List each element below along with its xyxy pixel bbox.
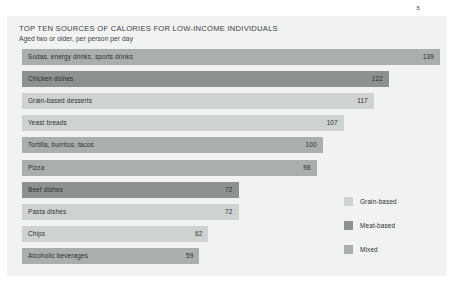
bar-category-label: Chips [28, 226, 45, 242]
bar-row: Tortilla, burritos, tacos100 [22, 137, 440, 153]
bar [22, 71, 389, 87]
bar-category-label: Beef dishes [28, 182, 63, 198]
bar-value-label: 62 [186, 226, 202, 242]
bar-category-label: Sodas, energy drinks, sports drinks [28, 49, 133, 65]
chart-subtitle: Aged two or older, per person per day [19, 35, 133, 43]
bar-category-label: Pizza [28, 160, 44, 176]
bar-value-label: 98 [295, 160, 311, 176]
chart-panel: TOP TEN SOURCES OF CALORIES FOR LOW-INCO… [7, 16, 447, 276]
bar-category-label: Grain-based desserts [28, 93, 92, 109]
bar-category-label: Chicken dishes [28, 71, 73, 87]
bar-row: Beef dishes72 [22, 182, 440, 198]
legend-label: Mixed [360, 245, 378, 254]
bar-value-label: 117 [352, 93, 368, 109]
bar-value-label: 72 [217, 182, 233, 198]
bar-value-label: 100 [301, 137, 317, 153]
bar-row: Pasta dishes72 [22, 204, 440, 220]
legend-swatch [344, 221, 353, 230]
bar-value-label: 59 [177, 248, 193, 264]
bar-category-label: Yeast breads [28, 115, 67, 131]
bar-row: Chicken dishes122 [22, 71, 440, 87]
bar-value-label: 122 [367, 71, 383, 87]
bar-category-label: Tortilla, burritos, tacos [28, 137, 94, 153]
bar-category-label: Pasta dishes [28, 204, 66, 220]
bar-row: Pizza98 [22, 160, 440, 176]
legend-swatch [344, 197, 353, 206]
bar-plot-area: Sodas, energy drinks, sports drinks139Ch… [22, 49, 447, 271]
bar [22, 115, 344, 131]
legend-label: Meat-based [360, 221, 395, 230]
legend-label: Grain-based [360, 197, 397, 206]
bar-row: Grain-based desserts117 [22, 93, 440, 109]
bar [22, 160, 317, 176]
bar-value-label: 107 [322, 115, 338, 131]
bar-value-label: 72 [217, 204, 233, 220]
corner-mark: B [416, 5, 420, 11]
bar [22, 226, 208, 242]
bar-category-label: Alcoholic beverages [28, 248, 88, 264]
chart-title: TOP TEN SOURCES OF CALORIES FOR LOW-INCO… [19, 24, 278, 33]
legend-swatch [344, 245, 353, 254]
bar-row: Sodas, energy drinks, sports drinks139 [22, 49, 440, 65]
bar-row: Yeast breads107 [22, 115, 440, 131]
bar-value-label: 139 [418, 49, 434, 65]
